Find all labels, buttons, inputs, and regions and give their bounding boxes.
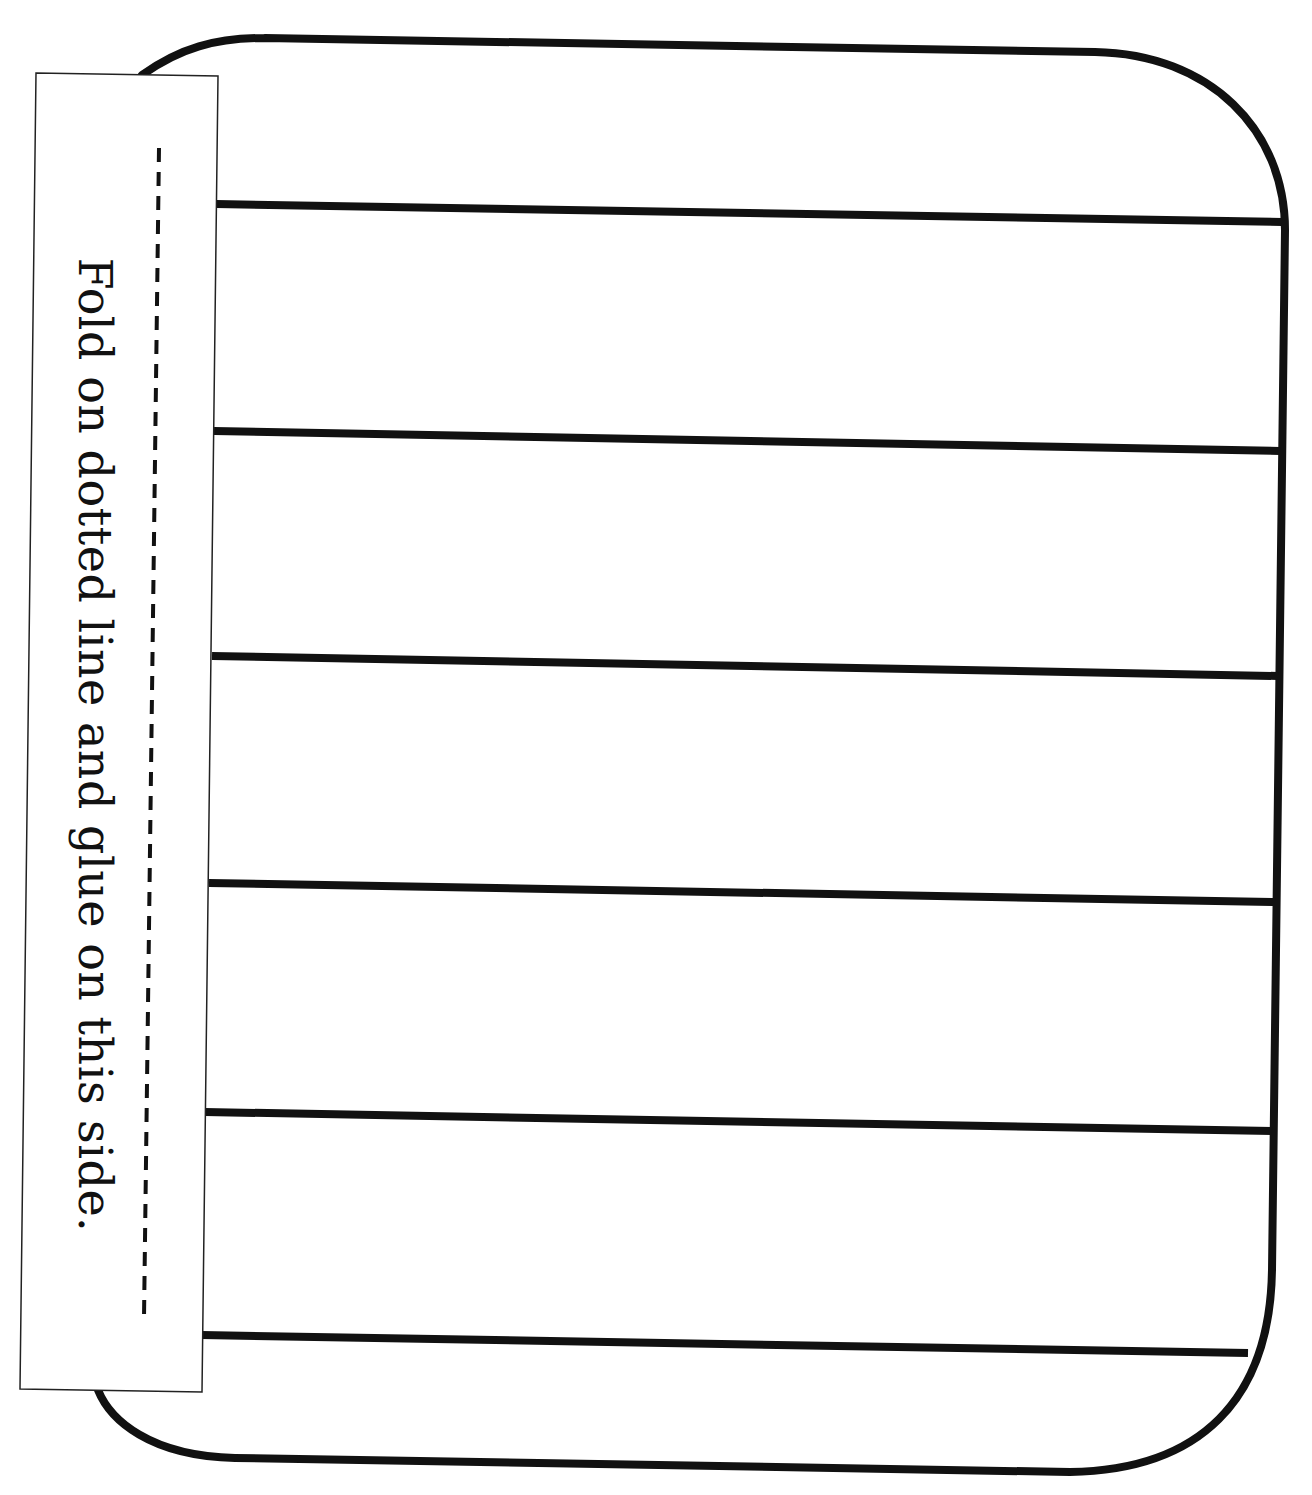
card-outline bbox=[98, 38, 1285, 1472]
ruled-line-4 bbox=[209, 883, 1275, 902]
glue-tab-instruction: Fold on dotted line and glue on this sid… bbox=[68, 258, 122, 1232]
ruled-line-6 bbox=[202, 1335, 1248, 1353]
ruled-line-2 bbox=[214, 431, 1280, 451]
ruled-line-1 bbox=[216, 204, 1282, 222]
foldable-template bbox=[0, 0, 1312, 1495]
ruled-line-3 bbox=[212, 656, 1278, 676]
ruled-line-5 bbox=[205, 1112, 1272, 1131]
